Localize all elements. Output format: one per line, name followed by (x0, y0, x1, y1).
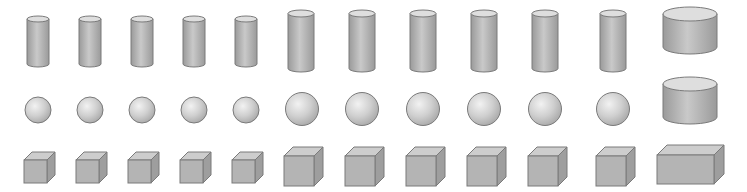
cylinder (600, 10, 626, 72)
cylinder (183, 16, 205, 67)
cube (596, 147, 635, 186)
sphere-row (25, 93, 630, 126)
cylinder (27, 16, 49, 67)
sphere (129, 97, 155, 123)
sphere (407, 93, 440, 126)
cylinder (131, 16, 153, 67)
sphere (233, 97, 259, 123)
cube (128, 152, 159, 183)
sphere (529, 93, 562, 126)
cube (24, 152, 55, 183)
cylinder (288, 10, 314, 72)
sphere (286, 93, 319, 126)
cylinder (410, 10, 436, 72)
cube (345, 147, 384, 186)
rectangular-box (657, 145, 724, 184)
shapes-canvas (0, 0, 747, 192)
cube (467, 147, 506, 186)
wide-cylinder (663, 77, 717, 124)
cylinder-row (27, 7, 717, 72)
cylinder (532, 10, 558, 72)
cube-row (24, 145, 724, 186)
cube (528, 147, 567, 186)
sphere (77, 97, 103, 123)
cylinder (471, 10, 497, 72)
cylinder (349, 10, 375, 72)
sphere (468, 93, 501, 126)
sphere (25, 97, 51, 123)
shapes-diagram (0, 0, 747, 192)
sphere (597, 93, 630, 126)
sphere (346, 93, 379, 126)
cube (284, 147, 323, 186)
cube (406, 147, 445, 186)
cylinder (235, 16, 257, 67)
sphere (181, 97, 207, 123)
wide-cylinder (663, 7, 717, 54)
cube (76, 152, 107, 183)
extra-cylinder-group (663, 77, 717, 124)
cube (232, 152, 263, 183)
cylinder (79, 16, 101, 67)
cube (180, 152, 211, 183)
